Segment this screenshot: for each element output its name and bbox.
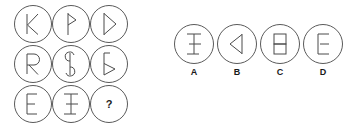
matrix-cell-r2c2[interactable]: S [52,45,90,83]
matrix-cell-r3c1[interactable]: E [14,85,52,123]
question-mark-glyph: ? [90,85,128,123]
option-c[interactable]: C [258,24,302,86]
matrix-cell-r2c1[interactable]: R [14,45,52,83]
left-triangle-glyph [217,24,257,64]
stacked-rectangles-glyph [260,24,300,64]
puzzle-canvas: K Þ D R [0,0,349,126]
option-d-label: D [301,67,345,77]
matrix-cell-r2c3[interactable]: Ϛ [90,45,128,83]
matrix-cell-r3c2[interactable]: I [52,85,90,123]
s-stroke-glyph [52,45,90,83]
lower-triangle-bowl-glyph [90,45,128,83]
option-a-label: A [172,67,216,77]
k-glyph [14,5,52,43]
e-glyph [14,85,52,123]
answer-options: A B C D [168,24,348,94]
matrix-cell-r1c2[interactable]: Þ [52,5,90,43]
i-beam-glyph [174,24,214,64]
i-beam-glyph [52,85,90,123]
matrix-cell-r3c3-question[interactable]: ? [90,85,128,123]
option-a[interactable]: A [172,24,216,86]
option-b[interactable]: B [215,24,259,86]
option-d[interactable]: D [301,24,345,86]
option-b-label: B [215,67,259,77]
r-glyph [14,45,52,83]
thorn-half-bowl-glyph [52,5,90,43]
d-triangle-bowl-glyph [90,5,128,43]
option-c-label: C [258,67,302,77]
e-bracket-glyph [303,24,343,64]
matrix-cell-r1c3[interactable]: D [90,5,128,43]
matrix-cell-r1c1[interactable]: K [14,5,52,43]
matrix-grid: K Þ D R [8,0,148,126]
